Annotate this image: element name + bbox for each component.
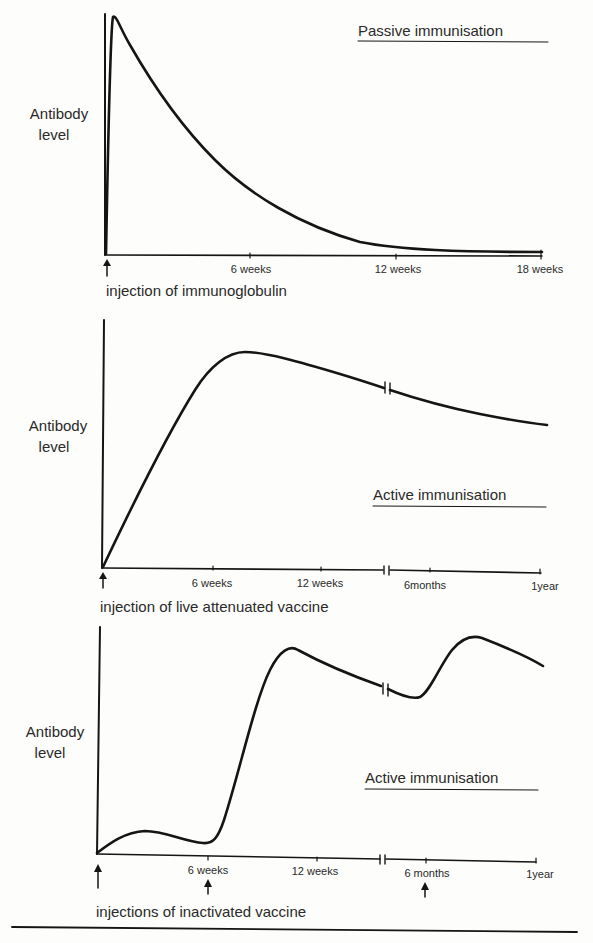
- injection-arrowhead-icon: [421, 882, 429, 890]
- panel1-title: Passive immunisation: [358, 22, 503, 39]
- x-tick-label: 12 weeks: [297, 577, 344, 589]
- panel3-ylabel: Antibody: [26, 723, 85, 740]
- panel1-ylabel: Antibody: [30, 105, 89, 122]
- injection-arrowhead-icon: [94, 864, 102, 872]
- panel2-ylabel: level: [39, 438, 70, 455]
- antibody-curve: [103, 352, 384, 567]
- injection-arrowhead-icon: [204, 879, 212, 887]
- panel1-caption: injection of immunoglobulin: [106, 282, 287, 299]
- figure: Passive immunisation Antibody level 6 we…: [0, 0, 593, 943]
- panel1-ylabel: level: [39, 126, 70, 143]
- x-tick-label: 12 weeks: [375, 263, 422, 275]
- x-tick-label: 6 months: [404, 867, 450, 879]
- antibody-curve: [106, 17, 542, 254]
- x-tick-label: 6months: [404, 579, 447, 591]
- panel3-title: Active immunisation: [365, 769, 498, 786]
- panel-active-immunisation-live: [99, 320, 547, 588]
- y-axis: [102, 320, 104, 568]
- x-tick-label: 6 weeks: [188, 864, 229, 876]
- x-axis: [386, 859, 536, 862]
- x-axis: [105, 255, 542, 256]
- x-tick-label: 6 weeks: [192, 577, 233, 589]
- injection-arrowhead-icon: [99, 572, 107, 579]
- x-tick-label: 6 weeks: [231, 263, 272, 275]
- panel3-ylabel: level: [35, 744, 66, 761]
- bottom-rule: [12, 927, 577, 932]
- x-tick-label: 1year: [526, 868, 554, 880]
- antibody-curve: [97, 648, 381, 853]
- x-axis: [102, 568, 383, 570]
- title-underline: [358, 41, 548, 42]
- x-tick-label: 18 weeks: [517, 263, 564, 275]
- x-tick-label: 12 weeks: [292, 865, 339, 877]
- antibody-curve-continued: [388, 637, 543, 698]
- y-axis: [97, 627, 100, 854]
- x-tick-label: 1year: [531, 580, 559, 592]
- panel3-caption: injections of inactivated vaccine: [96, 903, 306, 920]
- panel-passive-immunisation: [103, 14, 548, 276]
- x-axis: [97, 854, 380, 859]
- x-axis: [390, 570, 541, 573]
- panel2-title: Active immunisation: [373, 486, 506, 503]
- injection-arrowhead-icon: [103, 259, 111, 266]
- panel2-caption: injection of live attenuated vaccine: [100, 598, 328, 615]
- antibody-curve-continued: [390, 390, 547, 425]
- title-underline: [373, 506, 546, 507]
- panel2-ylabel: Antibody: [29, 417, 88, 434]
- title-underline: [365, 789, 538, 790]
